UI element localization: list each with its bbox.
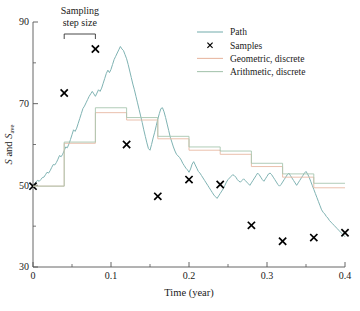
x-tick-label: 0.3	[261, 270, 274, 281]
chart-figure: 3050709000.10.20.30.4Time (year)S and Sa…	[0, 0, 360, 311]
x-axis-title: Time (year)	[164, 287, 214, 299]
legend-label: Samples	[230, 41, 262, 51]
series-step-geometric	[33, 113, 345, 188]
sample-marker	[92, 45, 99, 52]
sample-marker	[123, 141, 130, 148]
x-tick-label: 0.2	[183, 270, 196, 281]
annotation-line2: step size	[63, 17, 98, 28]
annotation-bracket	[64, 34, 95, 39]
x-tick-label: 0	[31, 270, 36, 281]
legend-label: Arithmetic, discrete	[230, 67, 305, 77]
sample-marker	[310, 234, 317, 241]
sample-marker	[341, 229, 348, 236]
sample-marker	[185, 176, 192, 183]
sample-marker	[217, 181, 224, 188]
sample-marker	[248, 222, 255, 229]
y-tick-label: 50	[19, 180, 29, 191]
chart-svg: 3050709000.10.20.30.4Time (year)S and Sa…	[0, 0, 360, 311]
sample-marker	[61, 89, 68, 96]
sample-marker	[154, 193, 161, 200]
x-tick-label: 0.4	[339, 270, 352, 281]
legend-label: Path	[230, 27, 247, 37]
annotation-line1: Sampling	[61, 5, 99, 16]
y-tick-label: 30	[19, 261, 29, 272]
y-tick-label: 70	[19, 98, 29, 109]
y-tick-label: 90	[19, 16, 29, 27]
y-axis-title: S and Save	[3, 124, 15, 164]
x-tick-label: 0.1	[105, 270, 118, 281]
sample-marker	[279, 238, 286, 245]
legend-label: Geometric, discrete	[230, 54, 304, 64]
